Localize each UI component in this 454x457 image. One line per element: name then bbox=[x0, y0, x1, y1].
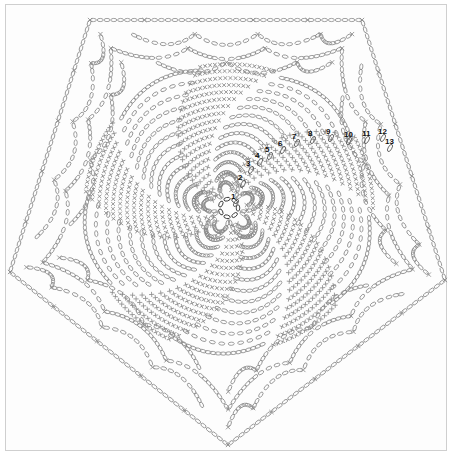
sc-stitch bbox=[322, 313, 328, 319]
sc-stitch bbox=[203, 91, 210, 98]
sc-stitch bbox=[167, 288, 173, 294]
chain-stitch bbox=[435, 254, 440, 261]
chain-stitch bbox=[174, 95, 181, 100]
chain-stitch bbox=[123, 258, 129, 265]
chain-stitch bbox=[351, 278, 357, 285]
chain-stitch bbox=[144, 96, 151, 102]
sc-stitch bbox=[286, 312, 292, 318]
chain-stitch bbox=[406, 304, 413, 310]
chain-stitch bbox=[99, 100, 105, 107]
sc-stitch bbox=[331, 140, 337, 146]
sc-stitch bbox=[133, 296, 138, 301]
sc-stitch bbox=[182, 146, 188, 152]
sc-stitch bbox=[165, 206, 172, 213]
sc-stitch bbox=[320, 285, 326, 291]
chain-stitch bbox=[61, 227, 66, 234]
sc-stitch bbox=[200, 318, 207, 325]
chain-stitch bbox=[377, 221, 383, 228]
chain-stitch bbox=[157, 138, 164, 144]
chain-stitch bbox=[218, 200, 224, 207]
chain-stitch bbox=[165, 97, 172, 102]
sc-stitch bbox=[339, 180, 346, 187]
sc-stitch bbox=[295, 281, 300, 286]
sc-stitch bbox=[230, 95, 237, 102]
sc-stitch bbox=[178, 228, 185, 235]
sc-stitch bbox=[183, 128, 189, 134]
chain-stitch bbox=[145, 271, 152, 277]
chain-stitch bbox=[340, 61, 343, 67]
chain-stitch bbox=[288, 18, 294, 21]
chain-stitch bbox=[316, 341, 323, 347]
chain-stitch bbox=[346, 330, 352, 334]
chain-stitch bbox=[142, 249, 147, 256]
chain-stitch bbox=[254, 326, 261, 331]
sc-stitch bbox=[288, 258, 294, 264]
chain-stitch bbox=[276, 280, 282, 287]
sc-stitch bbox=[145, 193, 152, 200]
chain-stitch bbox=[252, 105, 258, 109]
chain-stitch bbox=[219, 151, 226, 156]
chain-stitch bbox=[401, 222, 407, 229]
sc-stitch bbox=[180, 212, 187, 219]
chain-stitch bbox=[392, 239, 398, 246]
chain-stitch bbox=[81, 39, 86, 46]
sc-stitch bbox=[287, 232, 294, 239]
chain-stitch bbox=[330, 49, 337, 54]
chain-stitch bbox=[299, 339, 305, 346]
chain-stitch bbox=[365, 33, 370, 40]
sc-stitch bbox=[298, 322, 304, 328]
sc-stitch bbox=[130, 199, 137, 206]
sc-stitch bbox=[299, 156, 305, 162]
sc-stitch bbox=[306, 316, 312, 322]
sc-stitch bbox=[227, 278, 234, 285]
chain-stitch bbox=[119, 114, 125, 121]
chain-stitch bbox=[261, 294, 268, 300]
round-label: 13 bbox=[385, 137, 394, 146]
chain-stitch bbox=[267, 18, 273, 21]
chain-stitch bbox=[222, 296, 229, 301]
sc-stitch bbox=[102, 204, 109, 211]
chain-stitch bbox=[295, 89, 302, 94]
chain-stitch bbox=[122, 70, 126, 76]
chain-stitch bbox=[237, 106, 243, 110]
chain-stitch bbox=[263, 270, 270, 276]
chain-stitch bbox=[211, 329, 218, 334]
chain-stitch bbox=[140, 236, 144, 242]
sc-stitch bbox=[227, 88, 234, 95]
sc-stitch bbox=[237, 75, 244, 82]
sc-stitch bbox=[130, 292, 135, 297]
chain-stitch bbox=[286, 42, 292, 46]
sc-stitch bbox=[138, 211, 145, 218]
sc-stitch bbox=[139, 221, 146, 228]
sc-stitch bbox=[111, 144, 118, 151]
sc-stitch bbox=[324, 291, 330, 297]
chain-stitch bbox=[316, 90, 323, 96]
sc-stitch bbox=[317, 158, 324, 165]
chain-stitch bbox=[68, 220, 74, 227]
sc-stitch bbox=[162, 293, 168, 299]
sc-stitch bbox=[271, 210, 278, 217]
sc-stitch bbox=[294, 290, 300, 296]
chain-stitch bbox=[37, 293, 44, 299]
chain-stitch bbox=[90, 289, 96, 296]
chain-stitch bbox=[367, 207, 373, 214]
sc-stitch bbox=[114, 153, 121, 160]
sc-stitch bbox=[229, 271, 236, 278]
sc-stitch bbox=[276, 239, 282, 245]
chain-stitch bbox=[297, 116, 303, 123]
chain-stitch bbox=[274, 18, 280, 21]
chain-stitch bbox=[56, 195, 59, 201]
chain-stitch bbox=[431, 241, 436, 248]
sc-stitch bbox=[326, 162, 333, 169]
chain-stitch bbox=[137, 103, 143, 110]
chain-stitch bbox=[260, 314, 267, 320]
sc-stitch bbox=[301, 311, 307, 317]
sc-stitch bbox=[297, 297, 303, 303]
chain-stitch bbox=[64, 218, 69, 225]
sc-stitch bbox=[122, 305, 127, 310]
sc-stitch bbox=[224, 271, 231, 278]
sc-stitch bbox=[143, 296, 148, 301]
chain-stitch bbox=[199, 253, 205, 257]
sc-stitch bbox=[214, 256, 221, 263]
sc-stitch bbox=[310, 161, 317, 168]
